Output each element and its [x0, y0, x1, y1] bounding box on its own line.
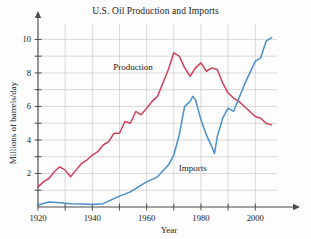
chart-plot-area: 24681019201940196019802000 ProductionImp…: [0, 0, 311, 239]
axes: [35, 11, 300, 210]
series-line-imports: [38, 38, 272, 205]
grid-lines: [38, 24, 277, 207]
y-tick-label: 10: [22, 34, 31, 44]
x-tick-label: 1980: [192, 213, 209, 223]
y-tick-label: 4: [27, 135, 32, 145]
y-tick-label: 2: [27, 168, 31, 178]
annotation-production: Production: [113, 62, 153, 72]
y-tick-label: 8: [27, 68, 31, 78]
x-tick-label: 2000: [247, 213, 264, 223]
y-tick-label: 6: [27, 101, 32, 111]
x-tick-label: 1940: [84, 213, 101, 223]
data-series: [38, 38, 272, 205]
x-tick-label: 1920: [29, 213, 46, 223]
annotation-imports: Imports: [179, 163, 207, 173]
x-tick-label: 1960: [138, 213, 155, 223]
series-annotations: ProductionImports: [113, 62, 207, 173]
chart-figure: U.S. Oil Production and Imports Millions…: [0, 0, 311, 239]
